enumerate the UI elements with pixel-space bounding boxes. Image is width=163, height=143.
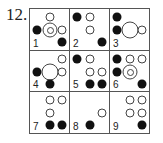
open-circle-icon <box>126 109 135 118</box>
cell-label: 5 <box>73 80 79 90</box>
cell-label: 6 <box>113 80 119 90</box>
open-circle-icon <box>58 68 67 77</box>
cell-label: 7 <box>33 122 39 132</box>
open-circle-icon <box>138 109 147 118</box>
open-circle-icon <box>86 26 95 35</box>
large-circle-icon <box>42 64 59 81</box>
filled-dot-icon <box>98 38 107 47</box>
cell-2: 2 <box>70 9 110 51</box>
open-circle-icon <box>46 96 55 105</box>
open-circle-icon <box>46 13 55 22</box>
cell-3: 3 <box>110 9 149 51</box>
cell-5: 5 <box>70 51 110 92</box>
cell-7: 7 <box>30 92 70 133</box>
question-number: 12. <box>6 5 27 25</box>
cell-label: 4 <box>33 80 39 90</box>
filled-dot-icon <box>33 26 42 35</box>
cell-1: 1 <box>30 9 70 51</box>
open-circle-icon <box>138 26 147 35</box>
filled-dot-icon <box>138 121 147 130</box>
open-circle-icon <box>58 26 67 35</box>
filled-dot-icon <box>33 68 42 77</box>
filled-dot-icon <box>86 80 95 89</box>
filled-dot-icon <box>138 80 147 89</box>
open-circle-icon <box>86 13 95 22</box>
open-circle-icon <box>58 96 67 105</box>
puzzle-grid: 1 2 3 4 5 6 7 8 9 <box>29 8 150 134</box>
filled-dot-icon <box>73 55 82 64</box>
filled-dot-icon <box>113 68 122 77</box>
cell-8: 8 <box>70 92 110 133</box>
open-circle-icon <box>138 55 147 64</box>
double-ring-icon <box>43 23 58 38</box>
filled-dot-icon <box>73 13 82 22</box>
filled-dot-icon <box>58 121 67 130</box>
open-circle-icon <box>126 96 135 105</box>
open-circle-icon <box>138 96 147 105</box>
cell-label: 2 <box>73 39 79 49</box>
cell-label: 1 <box>33 39 39 49</box>
double-ring-icon <box>123 65 138 80</box>
open-circle-icon <box>46 109 55 118</box>
cell-label: 3 <box>113 39 119 49</box>
filled-dot-icon <box>46 80 55 89</box>
open-circle-icon <box>98 68 107 77</box>
cell-6: 6 <box>110 51 149 92</box>
filled-dot-icon <box>86 121 95 130</box>
open-circle-icon <box>126 55 135 64</box>
filled-dot-icon <box>113 26 122 35</box>
filled-dot-icon <box>58 38 67 47</box>
cell-9: 9 <box>110 92 149 133</box>
filled-dot-icon <box>113 55 122 64</box>
open-circle-icon <box>58 55 67 64</box>
large-circle-icon <box>122 22 139 39</box>
cell-label: 8 <box>73 122 79 132</box>
filled-dot-icon <box>46 121 55 130</box>
filled-dot-icon <box>113 13 122 22</box>
filled-dot-icon <box>98 80 107 89</box>
cell-label: 9 <box>113 122 119 132</box>
open-circle-icon <box>86 55 95 64</box>
open-circle-icon <box>86 68 95 77</box>
open-circle-icon <box>98 109 107 118</box>
cell-4: 4 <box>30 51 70 92</box>
